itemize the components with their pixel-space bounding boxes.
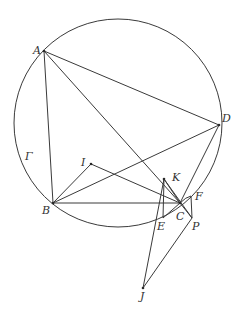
segment-FP [191,196,192,218]
point-C [179,202,182,205]
segment-AD [44,51,219,125]
geometry-diagram: A D Γ I K F B C E P J [0,0,243,313]
segment-AC [44,51,180,203]
label-gamma: Γ [24,150,33,163]
point-J [142,287,145,290]
label-P: P [191,220,200,233]
label-C: C [176,210,185,223]
label-J: J [138,290,145,303]
label-A: A [32,44,41,57]
point-I [90,163,93,166]
segment-BI [53,164,91,203]
point-K [163,178,166,181]
segment-AB [44,51,53,203]
label-D: D [221,112,231,125]
segment-JP [143,218,192,288]
point-D [218,124,221,127]
labels: A D Γ I K F B C E P J [24,44,231,303]
label-F: F [194,190,203,203]
segment-KJ [143,179,164,288]
label-B: B [41,204,50,217]
points [43,50,221,290]
segments [44,51,219,288]
point-A [43,50,46,53]
point-B [52,202,55,205]
label-K: K [171,171,181,184]
label-E: E [156,220,165,233]
label-I: I [80,156,86,169]
